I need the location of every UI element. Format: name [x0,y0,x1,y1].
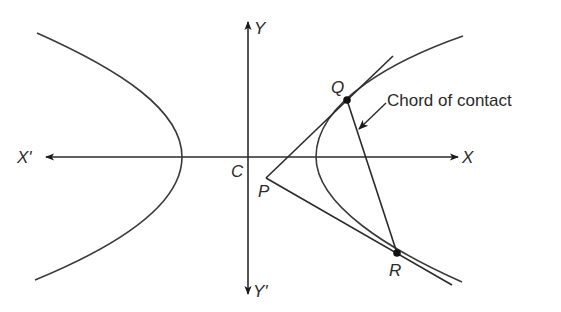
hyperbola-diagram: Y Y' X' X C P Q R Chord of contact [0,0,561,312]
diagram-svg [0,0,561,312]
point-r-dot [393,249,401,257]
x-axis-label: X [462,149,473,166]
center-c-label: C [231,163,243,180]
point-p-label: P [258,183,269,200]
y-prime-axis-label: Y' [253,283,268,300]
chord-pointer-arrow [359,103,386,129]
chord-of-contact-label: Chord of contact [387,92,512,109]
point-q-label: Q [331,79,344,96]
point-r-label: R [389,262,401,279]
point-q-dot [343,96,351,104]
x-prime-axis-label: X' [17,149,32,166]
hyperbola-right-branch [316,36,463,282]
tangent-line-pr [266,178,452,285]
y-axis-label: Y [254,20,265,37]
chord-of-contact-line [347,100,397,253]
tangent-line-pq [266,56,393,178]
